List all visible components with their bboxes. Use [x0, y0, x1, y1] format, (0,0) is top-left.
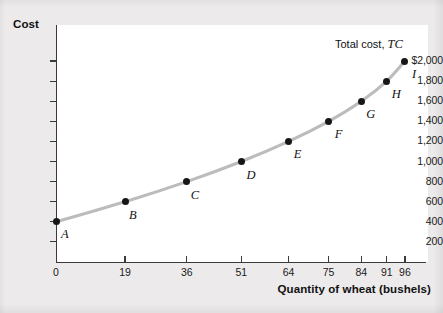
- data-point-label: I: [412, 67, 416, 82]
- data-point[interactable]: [238, 158, 245, 165]
- data-point[interactable]: [401, 58, 408, 65]
- data-point[interactable]: [383, 78, 390, 85]
- data-point-label: B: [129, 208, 137, 223]
- data-point-label: G: [366, 107, 375, 122]
- series-label-text: Total cost,: [335, 38, 385, 50]
- data-point-label: E: [294, 147, 302, 162]
- data-point-label: C: [191, 188, 199, 203]
- series-label: Total cost, TC: [335, 37, 403, 52]
- data-point[interactable]: [53, 218, 60, 225]
- data-point-label: H: [392, 87, 401, 102]
- data-point[interactable]: [325, 118, 332, 125]
- data-point-label: D: [246, 168, 255, 183]
- data-point-label: A: [61, 227, 69, 242]
- series-label-symbol: TC: [388, 37, 403, 51]
- data-point[interactable]: [358, 98, 365, 105]
- data-point[interactable]: [122, 198, 129, 205]
- data-point[interactable]: [285, 138, 292, 145]
- data-point-label: F: [335, 127, 343, 142]
- x-axis-title: Quantity of wheat (bushels): [278, 283, 432, 295]
- chart-figure: Cost 2004006008001,0001,2001,4001,6001,8…: [0, 0, 443, 313]
